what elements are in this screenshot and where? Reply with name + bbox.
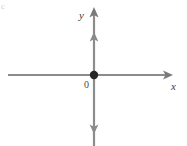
corner-mark-glyph: c xyxy=(1,3,5,11)
axes-graphic xyxy=(0,0,187,146)
origin-label: 0 xyxy=(84,80,89,90)
origin-point xyxy=(90,71,98,79)
coordinate-axes-figure: y x 0 c xyxy=(0,0,187,146)
y-axis-label: y xyxy=(79,10,84,21)
x-axis-label: x xyxy=(171,81,176,92)
